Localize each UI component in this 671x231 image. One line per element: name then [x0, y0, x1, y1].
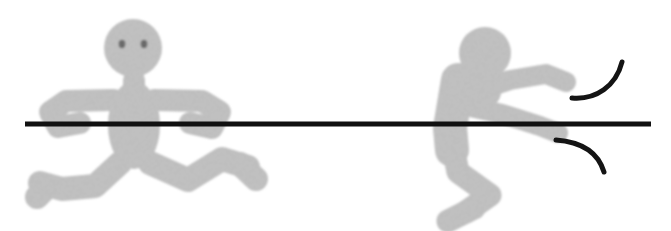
left-figure-left-eye: [119, 40, 126, 48]
left-figure-head: [104, 19, 162, 77]
left-figure-right-foot: [240, 164, 256, 179]
left-figure-right-eye: [141, 40, 148, 48]
illustration-canvas: [0, 0, 671, 231]
left-figure-left-foot: [37, 186, 48, 197]
right-figure-foot: [448, 208, 474, 221]
stick-figure-illustration: [0, 0, 671, 231]
right-figure-head: [459, 27, 511, 79]
